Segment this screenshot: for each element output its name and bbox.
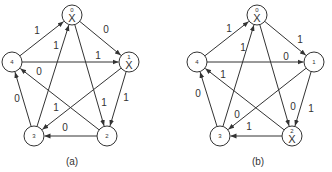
- marked-x-icon: X: [288, 133, 296, 145]
- state-node-3: 3: [210, 126, 230, 146]
- marked-x-icon: X: [68, 12, 76, 24]
- edge-1-to-3: [228, 68, 306, 129]
- edge-label: 1: [123, 92, 129, 103]
- edge-label: 1: [240, 42, 246, 53]
- edge-2-to-4: [20, 68, 99, 129]
- edge-label: 1: [308, 103, 314, 114]
- state-diagrams: 10111110000X1X234 11010101010X12X34 (a) …: [0, 0, 332, 172]
- state-node-4: 4: [2, 52, 22, 72]
- edge-label: 0: [103, 24, 109, 35]
- edge-1-to-2: [295, 72, 311, 126]
- state-node-1: 1: [304, 52, 324, 72]
- edge-label: 1: [101, 97, 107, 108]
- state-node-2: 2: [97, 126, 117, 146]
- edge-label: 1: [297, 34, 303, 45]
- edge-label: 0: [14, 93, 20, 104]
- state-node-0: 0X: [62, 5, 82, 25]
- edge-0-to-2: [75, 25, 104, 126]
- edge-label: 1: [53, 102, 59, 113]
- edge-label: 0: [283, 51, 289, 62]
- caption-a: (a): [66, 156, 78, 167]
- edge-label: 0: [195, 88, 201, 99]
- edge-label: 1: [246, 121, 252, 132]
- state-node-4: 4: [187, 52, 207, 72]
- edge-label: 1: [220, 69, 226, 80]
- edge-2-to-4: [205, 68, 284, 129]
- diagram-panel-b: 11010101010X12X34: [187, 5, 324, 146]
- state-node-1: 1X: [119, 52, 139, 72]
- edge-label: 0: [234, 109, 240, 120]
- edge-label: 1: [53, 40, 59, 51]
- edge-1-to-3: [42, 68, 121, 129]
- marked-x-icon: X: [253, 12, 261, 24]
- edge-label: 0: [36, 66, 42, 77]
- diagram-panel-a: 10111110000X1X234: [2, 5, 139, 146]
- caption-b: (b): [252, 156, 264, 167]
- edge-label: 1: [226, 23, 232, 34]
- edge-label: 0: [62, 122, 68, 133]
- edge-0-to-2: [260, 25, 289, 126]
- edge-label: 1: [34, 25, 40, 36]
- state-node-2: 2X: [282, 126, 302, 146]
- edge-label: 1: [95, 50, 101, 61]
- edge-label: 0: [290, 101, 296, 112]
- state-node-0: 0X: [247, 5, 267, 25]
- edge-3-to-4: [200, 72, 217, 126]
- marked-x-icon: X: [125, 59, 133, 71]
- state-node-3: 3: [24, 126, 44, 146]
